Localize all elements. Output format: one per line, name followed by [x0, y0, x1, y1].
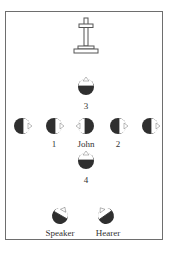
- speaker-head-icon: [49, 203, 72, 227]
- figure-john-head-icon: [76, 118, 94, 134]
- label-speaker: Speaker: [46, 228, 75, 238]
- label-1: 1: [52, 139, 57, 149]
- label-3: 3: [84, 101, 89, 111]
- diagram-canvas: [0, 0, 173, 253]
- figure-4-head-icon: [78, 151, 94, 169]
- label-4: 4: [84, 175, 89, 185]
- label-2: 2: [116, 139, 121, 149]
- figure-right-outer-head-icon: [142, 118, 160, 134]
- tombstone-cross-icon: [74, 18, 98, 53]
- figure-1-head-icon: [46, 118, 64, 134]
- figure-3-head-icon: [78, 77, 94, 95]
- figure-2-head-icon: [110, 118, 128, 134]
- label-hearer: Hearer: [96, 228, 120, 238]
- hearer-head-icon: [94, 203, 117, 227]
- label-john: John: [77, 139, 94, 149]
- figure-left-outer-head-icon: [14, 118, 32, 134]
